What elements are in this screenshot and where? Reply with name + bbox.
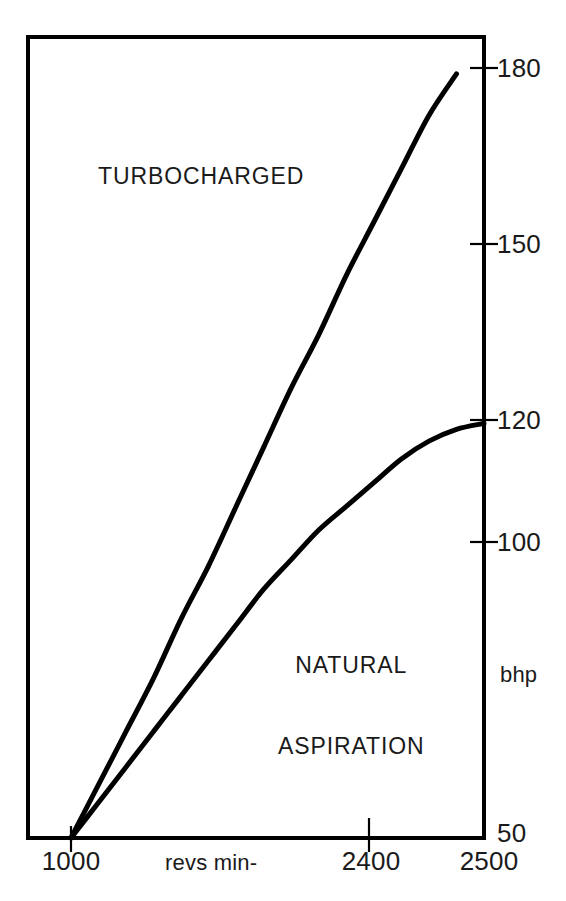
series-label-natural-aspiration-line2: ASPIRATION xyxy=(278,733,425,760)
y-tick-label-150: 150 xyxy=(497,231,541,257)
x-axis-title: revs min- xyxy=(165,851,257,875)
x-tick-label-2500: 2500 xyxy=(460,848,519,874)
x-tick-label-1000: 1000 xyxy=(42,848,101,874)
y-tick-label-180: 180 xyxy=(497,55,541,81)
x-tick-label-2400: 2400 xyxy=(342,848,401,874)
y-tick-label-100: 100 xyxy=(497,529,541,555)
chart-figure: 180 150 120 100 50 bhp 1000 2400 2500 re… xyxy=(0,0,566,901)
y-tick-label-50: 50 xyxy=(497,820,526,846)
series-label-natural-aspiration: NATURAL ASPIRATION xyxy=(278,598,425,814)
y-axis-title: bhp xyxy=(500,663,537,687)
series-label-turbocharged: TURBOCHARGED xyxy=(98,163,304,190)
y-tick-label-120: 120 xyxy=(497,407,541,433)
series-label-natural-aspiration-line1: NATURAL xyxy=(278,652,425,679)
